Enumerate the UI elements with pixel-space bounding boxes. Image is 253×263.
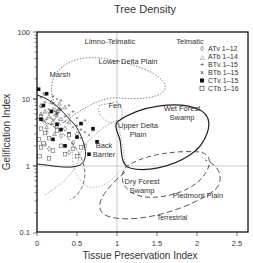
data-point — [43, 110, 47, 114]
x-tick-0: 0 — [35, 239, 39, 248]
legend-label-btv: BTv 1–15 — [208, 61, 238, 68]
y-tick-0.1: 0.1 — [20, 228, 30, 237]
data-point — [51, 138, 55, 142]
data-point — [53, 132, 57, 136]
legend: ◊ ATv 1–12 △ ATb 1–14 + BTv 1–15 × BTb 1… — [200, 45, 239, 92]
y-tick-1: 1 — [26, 162, 30, 171]
data-point — [59, 144, 63, 148]
data-point — [55, 129, 59, 133]
data-point — [75, 154, 79, 158]
data-point — [80, 128, 83, 131]
label-dry-forest: Dry Forest — [124, 177, 160, 186]
label-lake: Lake — [49, 105, 64, 122]
chart-svg: Tree Density Limno-Telmatic Telmatic Low… — [0, 0, 253, 263]
data-point — [44, 101, 47, 104]
data-point — [60, 99, 63, 102]
legend-marker-triangle-icon: △ — [200, 54, 205, 60]
data-point — [51, 149, 55, 153]
legend-label-atv: ATv 1–12 — [208, 45, 238, 52]
data-point — [42, 104, 46, 108]
data-point — [75, 135, 79, 139]
label-plain: Plain — [130, 130, 147, 139]
data-point — [64, 120, 66, 122]
legend-marker-plus-icon: + — [200, 61, 204, 68]
label-fen: Fen — [109, 101, 122, 110]
data-point — [79, 122, 83, 126]
y-axis-label: Gelification Index — [1, 94, 12, 171]
x-axis-label: Tissue Preservation Index — [82, 250, 197, 261]
data-point — [39, 146, 43, 150]
label-limno-telmatic: Limno-Telmatic — [85, 37, 136, 46]
data-point — [67, 120, 71, 124]
data-point — [50, 123, 53, 126]
x-tick-0.5: 0.5 — [72, 239, 82, 248]
data-point — [67, 133, 71, 137]
data-point — [72, 110, 75, 113]
data-point — [95, 140, 99, 144]
data-point — [63, 152, 67, 156]
legend-marker-filled-square-icon — [200, 79, 204, 83]
data-point — [38, 154, 42, 158]
data-point — [76, 117, 78, 119]
data-point — [59, 134, 62, 139]
data-point — [45, 125, 49, 129]
data-point — [50, 110, 54, 114]
lower-delta-plain-region — [52, 58, 166, 125]
data-point — [52, 95, 55, 98]
x-tick-2.5: 2.5 — [232, 239, 242, 248]
legend-label-ctb: CTb 1–16 — [208, 85, 239, 92]
data-point — [91, 127, 95, 131]
data-point — [63, 126, 66, 131]
data-point — [58, 102, 62, 106]
legend-marker-diamond-icon: ◊ — [200, 45, 204, 52]
data-point — [47, 157, 51, 161]
data-point — [79, 146, 83, 150]
data-point — [59, 128, 63, 132]
data-point — [39, 117, 43, 121]
data-point — [71, 147, 75, 151]
data-point — [56, 98, 58, 100]
piedmont-plain-region — [100, 160, 221, 219]
legend-label-ctv: CTv 1–15 — [208, 77, 238, 84]
chart-container: Tree Density Limno-Telmatic Telmatic Low… — [0, 0, 253, 263]
label-terrestrial: Terrestrial — [157, 214, 188, 221]
data-point — [67, 150, 70, 155]
data-point — [43, 131, 47, 135]
data-point — [68, 104, 71, 107]
label-wet-swamp: Swamp — [169, 113, 194, 122]
data-point — [63, 105, 67, 109]
label-lower-delta-plain: Lower Delta Plain — [99, 57, 158, 66]
data-point — [88, 134, 90, 136]
data-point — [84, 119, 87, 122]
data-point — [68, 114, 70, 116]
data-point — [45, 122, 47, 124]
data-point — [47, 146, 50, 151]
data-point — [59, 117, 63, 121]
label-upper-delta: Upper Delta — [118, 121, 159, 130]
data-point — [55, 122, 59, 126]
label-marsh: Marsh — [50, 70, 71, 79]
x-tick-1.5: 1.5 — [152, 239, 162, 248]
x-tick-2: 2 — [195, 239, 199, 248]
label-dry-swamp: Swamp — [129, 186, 154, 195]
y-tick-10: 10 — [22, 95, 30, 104]
label-wet-forest: Wet Forest — [164, 104, 201, 113]
data-point — [42, 92, 45, 95]
data-point — [47, 136, 51, 140]
data-point — [63, 144, 67, 148]
data-point — [72, 126, 74, 128]
legend-marker-open-square-icon — [200, 87, 204, 91]
legend-marker-x-icon: × — [200, 69, 204, 76]
label-piedmont-plain: Piedmont Plain — [173, 191, 223, 200]
data-point — [84, 131, 86, 133]
x-tick-1: 1 — [115, 239, 119, 248]
data-point — [45, 92, 49, 96]
data-point — [42, 141, 46, 145]
chart-title: Tree Density — [114, 3, 176, 15]
legend-label-btb: BTb 1–15 — [208, 69, 238, 76]
label-barrier: Barrier — [93, 150, 116, 159]
data-point — [87, 152, 91, 156]
y-tick-100: 100 — [17, 28, 30, 37]
data-point — [39, 127, 43, 131]
legend-label-atb: ATb 1–14 — [208, 53, 238, 60]
